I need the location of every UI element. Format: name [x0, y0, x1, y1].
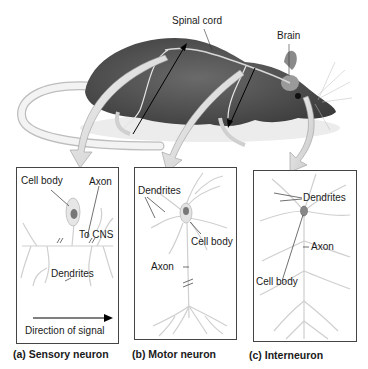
motor-dendrites-label: Dendrites	[138, 186, 181, 196]
caption-motor-neuron: (b) Motor neuron	[132, 349, 216, 360]
caption-interneuron: (c) Interneuron	[249, 350, 323, 361]
sensory-cell-body-label: Cell body	[21, 176, 63, 186]
direction-of-signal-label: Direction of signal	[25, 326, 104, 336]
rat-eye	[295, 93, 301, 99]
inter-axon-label: Axon	[311, 242, 334, 252]
spinal-cord-label: Spinal cord	[172, 16, 222, 26]
panel-sensory-neuron: Cell body Axon To CNS Dendrites Directio…	[16, 167, 119, 344]
sensory-axon-label: Axon	[89, 177, 112, 187]
rat-ear	[284, 51, 297, 70]
sensory-to-cns-label: To CNS	[79, 230, 113, 240]
motor-axon-label: Axon	[151, 262, 174, 272]
panel-motor-neuron: Dendrites Cell body Axon	[134, 167, 237, 340]
inter-dendrites-label: Dendrites	[303, 193, 346, 203]
sensory-dendrites-label: Dendrites	[51, 269, 94, 279]
panel-interneuron: Dendrites Axon Cell body	[253, 170, 357, 342]
sensory-neuron-drawing	[17, 168, 118, 343]
inter-cell-body-label: Cell body	[256, 277, 298, 287]
caption-sensory-neuron: (a) Sensory neuron	[13, 349, 109, 360]
motor-cell-body-label: Cell body	[191, 237, 233, 247]
brain-label: Brain	[277, 31, 300, 41]
